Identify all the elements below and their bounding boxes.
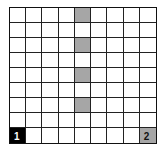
grid-cell	[91, 23, 107, 38]
grid-cell	[140, 83, 156, 98]
grid-cell	[42, 68, 58, 83]
grid-cell	[140, 98, 156, 113]
grid-cell	[124, 128, 140, 143]
grid-cell	[124, 68, 140, 83]
grid-board: 12	[9, 7, 157, 144]
grid-cell	[107, 83, 123, 98]
grid-cell	[26, 83, 42, 98]
grid-cell	[26, 8, 42, 23]
grid-cell	[42, 8, 58, 23]
grid-cell	[91, 8, 107, 23]
grid-cell	[124, 53, 140, 68]
grid-cell	[26, 98, 42, 113]
grid-cell	[75, 53, 91, 68]
grid-cell	[42, 98, 58, 113]
grid-cell	[124, 23, 140, 38]
grid-cell	[107, 128, 123, 143]
grid-cell	[59, 53, 75, 68]
cell-label: 1	[14, 131, 20, 142]
grid-cell	[10, 8, 26, 23]
grid-cell	[26, 53, 42, 68]
grid-cell	[26, 113, 42, 128]
grid-cell-shaded	[75, 68, 91, 83]
grid-cell	[59, 83, 75, 98]
grid-cell	[91, 68, 107, 83]
grid-cell	[124, 83, 140, 98]
grid-cell	[107, 23, 123, 38]
grid-cell	[91, 38, 107, 53]
grid-cell	[124, 98, 140, 113]
grid-cell	[91, 53, 107, 68]
grid-cell	[107, 38, 123, 53]
grid-cell	[107, 98, 123, 113]
grid-cell	[42, 23, 58, 38]
grid-cell	[91, 113, 107, 128]
grid-cell	[140, 8, 156, 23]
grid-cell	[59, 8, 75, 23]
grid-cell-marker-1: 1	[10, 128, 26, 143]
grid-cell	[10, 83, 26, 98]
grid-cell	[59, 68, 75, 83]
grid-cell	[124, 8, 140, 23]
grid-cell	[140, 23, 156, 38]
grid-cell	[75, 23, 91, 38]
grid-cell	[26, 128, 42, 143]
grid-cell	[59, 113, 75, 128]
grid-cell	[59, 23, 75, 38]
grid-cell	[10, 98, 26, 113]
grid-cell	[42, 128, 58, 143]
grid-cell	[140, 113, 156, 128]
grid-cell	[42, 83, 58, 98]
grid-cell	[107, 68, 123, 83]
grid-cell	[124, 113, 140, 128]
grid-cell	[10, 68, 26, 83]
grid-cell	[42, 113, 58, 128]
grid-cell	[10, 38, 26, 53]
grid-cell-marker-2: 2	[140, 128, 156, 143]
grid-cell	[140, 53, 156, 68]
grid-cell	[42, 38, 58, 53]
grid-cell	[26, 23, 42, 38]
grid-cell	[91, 98, 107, 113]
grid-cell	[10, 53, 26, 68]
cell-label: 2	[144, 131, 150, 142]
grid-cell	[75, 83, 91, 98]
grid-cell	[26, 68, 42, 83]
grid-cell	[42, 53, 58, 68]
grid-cell	[140, 38, 156, 53]
grid-cell	[107, 8, 123, 23]
grid-cell	[124, 38, 140, 53]
grid-cell	[75, 113, 91, 128]
grid-cell	[59, 38, 75, 53]
grid-cell	[10, 113, 26, 128]
grid-cell-shaded	[75, 98, 91, 113]
grid-cell	[10, 23, 26, 38]
grid-cell	[107, 113, 123, 128]
grid-cell	[59, 128, 75, 143]
grid-cell	[59, 98, 75, 113]
grid-cell	[75, 128, 91, 143]
grid-cell	[91, 83, 107, 98]
grid-cell	[26, 38, 42, 53]
grid-cell-shaded	[75, 38, 91, 53]
grid-cell	[140, 68, 156, 83]
grid-cell	[107, 53, 123, 68]
grid-cell	[91, 128, 107, 143]
grid-cell-shaded	[75, 8, 91, 23]
